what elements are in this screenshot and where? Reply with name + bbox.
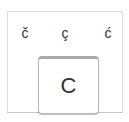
key-c[interactable]: C bbox=[38, 56, 99, 114]
accent-option-c-caron[interactable]: č bbox=[13, 24, 37, 42]
key-label: C bbox=[61, 73, 77, 99]
accent-option-c-acute[interactable]: ć bbox=[96, 24, 120, 42]
accent-popup: č ç ć C bbox=[7, 11, 123, 113]
accent-option-c-cedilla[interactable]: ç bbox=[53, 24, 77, 42]
